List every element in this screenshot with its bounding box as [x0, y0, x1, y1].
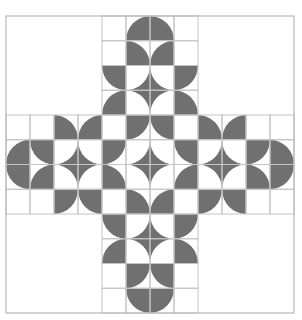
quarter-disc-tile: [174, 90, 198, 115]
grid-cell: [102, 264, 126, 289]
concave-square-tile: [150, 90, 174, 115]
concave-square-tile: [150, 66, 174, 91]
concave-square-tile: [222, 165, 246, 190]
concave-square-tile: [150, 140, 174, 165]
concave-square-tile: [126, 165, 150, 190]
grid-cell: [102, 16, 126, 41]
quarter-disc-tile: [126, 41, 150, 66]
grid-cell: [102, 115, 126, 140]
concave-square-tile: [198, 165, 222, 190]
concave-square-tile: [126, 140, 150, 165]
concave-square-tile: [54, 140, 78, 165]
quarter-disc-tile: [174, 165, 198, 190]
quarter-disc-tile: [198, 115, 222, 140]
quarter-disc-tile: [150, 189, 174, 214]
quarter-disc-tile: [30, 140, 54, 165]
grid-cell: [270, 115, 294, 140]
concave-square-tile: [78, 140, 102, 165]
quarter-disc-tile: [222, 115, 246, 140]
concave-square-tile: [126, 90, 150, 115]
quilt-figure: Quarter-circle quilt cross pattern: [0, 0, 302, 320]
grid-cell: [102, 189, 126, 214]
quarter-disc-tile: [6, 140, 30, 165]
quarter-disc-tile: [198, 189, 222, 214]
quarter-disc-tile: [174, 140, 198, 165]
quarter-disc-tile: [78, 115, 102, 140]
quarter-disc-tile: [54, 189, 78, 214]
quarter-disc-tile: [126, 189, 150, 214]
quarter-disc-tile: [126, 288, 150, 313]
quarter-disc-tile: [102, 239, 126, 264]
quarter-disc-tile: [102, 214, 126, 239]
grid-cell: [102, 41, 126, 66]
grid-cell: [102, 288, 126, 313]
quarter-disc-tile: [246, 140, 270, 165]
grid-cell: [246, 189, 270, 214]
quarter-disc-tile: [222, 189, 246, 214]
quarter-disc-tile: [126, 264, 150, 289]
quarter-disc-tile: [30, 165, 54, 190]
quarter-disc-tile: [174, 66, 198, 91]
grid-cell: [174, 288, 198, 313]
quarter-disc-tile: [150, 16, 174, 41]
quarter-disc-tile: [102, 165, 126, 190]
quarter-disc-tile: [150, 41, 174, 66]
quarter-disc-tile: [150, 115, 174, 140]
concave-square-tile: [150, 165, 174, 190]
grid-cell: [6, 189, 30, 214]
quarter-disc-tile: [102, 140, 126, 165]
grid-cell: [174, 16, 198, 41]
concave-square-tile: [126, 239, 150, 264]
quarter-disc-tile: [102, 90, 126, 115]
concave-square-tile: [222, 140, 246, 165]
concave-square-tile: [54, 165, 78, 190]
grid-cell: [174, 189, 198, 214]
quarter-disc-tile: [126, 16, 150, 41]
quarter-disc-tile: [174, 214, 198, 239]
quarter-disc-tile: [270, 140, 294, 165]
grid-cell: [270, 189, 294, 214]
quarter-disc-tile: [246, 165, 270, 190]
quarter-disc-tile: [126, 115, 150, 140]
concave-square-tile: [126, 66, 150, 91]
grid-cell: [30, 189, 54, 214]
concave-square-tile: [126, 214, 150, 239]
grid-cell: [174, 41, 198, 66]
grid-cell: [6, 115, 30, 140]
quilt-pattern-canvas: [0, 0, 302, 320]
quarter-disc-tile: [54, 115, 78, 140]
quarter-disc-tile: [102, 66, 126, 91]
concave-square-tile: [150, 239, 174, 264]
concave-square-tile: [78, 165, 102, 190]
quarter-disc-tile: [6, 165, 30, 190]
concave-square-tile: [198, 140, 222, 165]
quarter-disc-tile: [174, 239, 198, 264]
quarter-disc-tile: [150, 288, 174, 313]
grid-lines: [6, 16, 294, 313]
grid-cell: [30, 115, 54, 140]
concave-square-tile: [150, 214, 174, 239]
quarter-disc-tile: [270, 165, 294, 190]
quarter-disc-tile: [150, 264, 174, 289]
grid-cell: [246, 115, 270, 140]
grid-cell: [174, 264, 198, 289]
quarter-disc-tile: [78, 189, 102, 214]
grid-cell: [174, 115, 198, 140]
